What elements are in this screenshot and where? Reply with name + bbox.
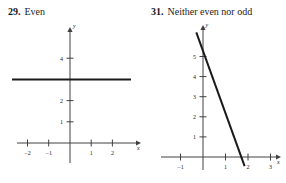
x-tick-label: −1 xyxy=(177,164,183,170)
data-series-decreasing-line xyxy=(196,32,244,166)
y-tick-label: 4 xyxy=(193,74,196,80)
x-axis-label: x xyxy=(136,145,140,151)
x-tick-label: −1 xyxy=(46,150,52,156)
x-tick-label: 1 xyxy=(224,164,227,170)
problem-panel-29: 29.Even y x −2 −1 xyxy=(0,0,143,183)
x-axis xyxy=(161,154,281,159)
graph-31: y x −1 1 2 3 1 2 3 4 xyxy=(143,0,286,183)
x-tick-label: 1 xyxy=(90,150,93,156)
y-tick-label: 3 xyxy=(193,94,196,100)
x-tick-label: −2 xyxy=(24,150,30,156)
problem-panel-31: 31.Neither even nor odd y x xyxy=(143,0,286,183)
x-axis xyxy=(17,140,141,145)
x-tick-label: 2 xyxy=(247,164,250,170)
y-tick-label: 2 xyxy=(193,114,196,120)
y-tick-label: 2 xyxy=(60,98,63,104)
y-axis-label: y xyxy=(72,23,76,29)
y-tick-label: 1 xyxy=(193,134,196,140)
x-tick-label: 2 xyxy=(111,150,114,156)
y-tick-label: 4 xyxy=(60,56,63,62)
y-axis-label: y xyxy=(205,22,209,28)
y-tick-label: 5 xyxy=(193,54,196,60)
y-tick-label: 1 xyxy=(60,119,63,125)
x-axis-label: x xyxy=(276,159,280,165)
x-tick-label: 3 xyxy=(269,164,272,170)
graph-29: y x −2 −1 1 2 1 2 4 xyxy=(0,0,143,183)
